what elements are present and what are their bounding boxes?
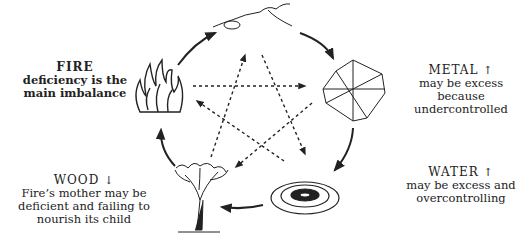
fire-label: FIRE deficiency is the main imbalance (10, 61, 140, 100)
flame-icon (136, 60, 183, 112)
metal-label: METAL ↑ may be excess because undercontr… (398, 64, 524, 116)
wood-description: Fire’s mother may be deficient and faili… (0, 187, 168, 226)
water-title: WATER (428, 165, 479, 179)
mountain-icon (213, 4, 292, 29)
water-label: WATER ↑ may be excess and overcontrollin… (398, 166, 524, 205)
crystal-icon (323, 60, 385, 121)
fire-description: deficiency is the main imbalance (10, 74, 140, 100)
tree-icon (175, 163, 228, 232)
ripple-icon (271, 182, 339, 214)
wood-label: WOOD ↓ Fire’s mother may be deficient an… (0, 174, 168, 226)
metal-title: METAL (428, 63, 478, 77)
water-description: may be excess and overcontrolling (398, 179, 524, 205)
wood-title: WOOD (54, 173, 100, 187)
metal-description: may be excess because undercontrolled (398, 77, 524, 116)
controlling-cycle-star (193, 55, 312, 167)
